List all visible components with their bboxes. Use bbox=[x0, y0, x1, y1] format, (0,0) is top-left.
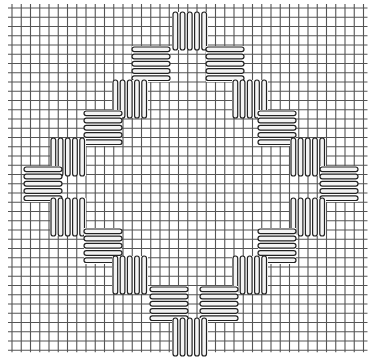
stitch bbox=[180, 318, 185, 356]
stitch bbox=[206, 69, 244, 74]
stitch bbox=[80, 138, 85, 176]
stitch bbox=[173, 12, 178, 50]
stitch bbox=[51, 198, 56, 236]
horizontal-stitch-block bbox=[320, 166, 358, 202]
vertical-stitch-block bbox=[50, 198, 86, 236]
stitch bbox=[233, 80, 238, 118]
stitch bbox=[240, 80, 245, 118]
stitch bbox=[262, 256, 267, 294]
stitch bbox=[320, 198, 325, 236]
horizontal-stitch-block bbox=[150, 286, 188, 322]
stitch bbox=[150, 309, 188, 314]
stitch bbox=[135, 256, 140, 294]
stitch-diagram bbox=[0, 0, 373, 359]
stitch bbox=[24, 189, 62, 194]
stitch bbox=[200, 294, 238, 299]
stitch bbox=[200, 309, 238, 314]
stitch bbox=[258, 236, 296, 241]
stitch bbox=[84, 118, 122, 123]
stitch bbox=[24, 167, 62, 172]
stitch bbox=[202, 12, 207, 50]
stitch bbox=[258, 243, 296, 248]
stitch bbox=[258, 111, 296, 116]
stitch bbox=[132, 69, 170, 74]
horizontal-stitch-block bbox=[200, 286, 238, 322]
stitch bbox=[132, 54, 170, 59]
stitch bbox=[240, 256, 245, 294]
stitch bbox=[150, 294, 188, 299]
stitch bbox=[142, 256, 147, 294]
stitch bbox=[291, 138, 296, 176]
stitch bbox=[132, 61, 170, 66]
stitch bbox=[195, 318, 200, 356]
stitch bbox=[24, 174, 62, 179]
stitch bbox=[73, 138, 78, 176]
stitch bbox=[258, 118, 296, 123]
stitch bbox=[120, 256, 125, 294]
vertical-stitch-block bbox=[172, 12, 208, 50]
stitch bbox=[84, 111, 122, 116]
horizontal-stitch-block bbox=[132, 46, 170, 82]
stitch bbox=[313, 138, 318, 176]
stitch bbox=[305, 138, 310, 176]
stitch bbox=[206, 47, 244, 52]
stitch bbox=[135, 80, 140, 118]
stitch bbox=[150, 301, 188, 306]
stitch bbox=[320, 189, 358, 194]
stitch bbox=[84, 236, 122, 241]
stitch bbox=[200, 287, 238, 292]
stitch bbox=[247, 80, 252, 118]
stitch bbox=[187, 318, 192, 356]
stitch bbox=[206, 61, 244, 66]
stitch bbox=[24, 181, 62, 186]
stitch bbox=[320, 181, 358, 186]
stitch bbox=[202, 318, 207, 356]
stitch bbox=[65, 138, 70, 176]
stitch bbox=[298, 198, 303, 236]
stitch bbox=[187, 12, 192, 50]
stitch bbox=[132, 47, 170, 52]
stitch bbox=[247, 256, 252, 294]
stitch bbox=[113, 256, 118, 294]
stitch bbox=[127, 256, 132, 294]
stitch bbox=[173, 318, 178, 356]
stitch bbox=[206, 76, 244, 81]
stitch bbox=[255, 256, 260, 294]
stitch bbox=[258, 125, 296, 130]
stitch bbox=[65, 198, 70, 236]
stitch bbox=[84, 229, 122, 234]
stitch bbox=[195, 12, 200, 50]
stitch bbox=[258, 251, 296, 256]
stitch bbox=[84, 140, 122, 145]
stitch bbox=[200, 301, 238, 306]
stitch bbox=[258, 133, 296, 138]
horizontal-stitch-block bbox=[206, 46, 244, 82]
stitch bbox=[180, 12, 185, 50]
horizontal-stitch-block bbox=[84, 110, 122, 146]
stitch bbox=[84, 243, 122, 248]
vertical-stitch-block bbox=[172, 318, 208, 356]
stitch bbox=[58, 198, 63, 236]
stitch bbox=[298, 138, 303, 176]
stitch bbox=[84, 133, 122, 138]
stitch bbox=[258, 229, 296, 234]
stitch bbox=[320, 174, 358, 179]
horizontal-stitch-block bbox=[24, 166, 62, 202]
stitch bbox=[320, 167, 358, 172]
stitch bbox=[84, 125, 122, 130]
stitch bbox=[142, 80, 147, 118]
vertical-stitch-block bbox=[112, 256, 148, 294]
stitch bbox=[73, 198, 78, 236]
stitch bbox=[206, 54, 244, 59]
stitch bbox=[313, 198, 318, 236]
stitch bbox=[127, 80, 132, 118]
stitch bbox=[305, 198, 310, 236]
stitch bbox=[84, 251, 122, 256]
stitch bbox=[150, 287, 188, 292]
